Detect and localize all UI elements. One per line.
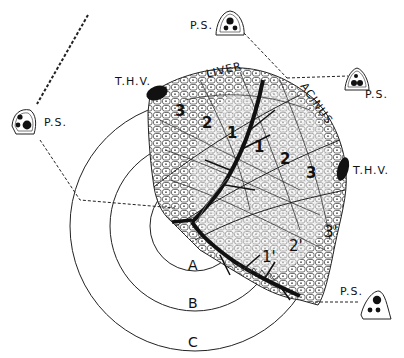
ps-left-triad — [12, 110, 36, 134]
zone-2-right: 2 — [280, 150, 290, 168]
ps-top-triad — [216, 11, 244, 35]
ring-c-label: C — [188, 334, 198, 350]
ps-right-triad — [345, 68, 369, 90]
thv-right-label: T.H.V. — [352, 164, 389, 177]
zone-1-upper-a: 1 — [227, 124, 237, 142]
ring-b-label: B — [188, 295, 198, 311]
zone-2-prime: 2' — [289, 237, 303, 255]
ring-a-label: A — [188, 257, 198, 273]
zone-3-upper: 3 — [175, 102, 185, 120]
ps-bottom-right-label: P.S. — [340, 285, 363, 298]
zone-3-right: 3 — [306, 164, 316, 182]
zone-1-upper-b: 1 — [254, 138, 264, 156]
ps-right-label: P.S. — [365, 88, 388, 101]
thv-top-left-label: T.H.V. — [114, 75, 151, 88]
zone-1-prime: 1' — [262, 248, 276, 266]
ps-bottom-right-triad — [361, 291, 391, 319]
zone-3-prime: 3' — [324, 223, 338, 241]
liver-acinus-diagram: P.S. P.S. P.S. P.S. T.H.V. T.H.V. LIVER … — [0, 0, 404, 358]
ps-left-label: P.S. — [44, 116, 67, 129]
ps-top-label: P.S. — [190, 19, 213, 32]
zone-2-upper: 2 — [202, 114, 212, 132]
